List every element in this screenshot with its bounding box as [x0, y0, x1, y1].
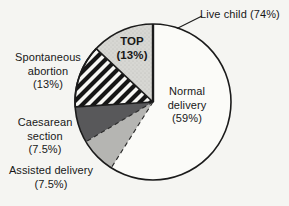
label-caesarean-line3: (7.5%)	[0, 143, 90, 157]
live-child-leader-line	[177, 16, 202, 29]
label-assisted-line1: Assisted delivery	[1, 164, 101, 178]
label-top-slice: TOP (13%)	[100, 35, 164, 62]
label-normal-delivery: Normal delivery (59%)	[147, 85, 227, 126]
label-spontaneous-line1: Spontaneous	[0, 51, 96, 65]
label-top-line2: (13%)	[100, 49, 164, 63]
label-caesarean-section: Caesarean section (7.5%)	[0, 116, 90, 157]
label-live-child: Live child (74%)	[200, 8, 280, 22]
label-normal-line3: (59%)	[147, 112, 227, 126]
label-live-child-text: Live child (74%)	[200, 8, 280, 22]
label-spontaneous-line2: abortion	[0, 65, 96, 79]
label-assisted-delivery: Assisted delivery (7.5%)	[1, 164, 101, 191]
label-caesarean-line2: section	[0, 130, 90, 144]
label-caesarean-line1: Caesarean	[0, 116, 90, 130]
label-top-line1: TOP	[100, 35, 164, 49]
label-spontaneous-line3: (13%)	[0, 78, 96, 92]
label-normal-line2: delivery	[147, 99, 227, 113]
pie-chart-figure: Live child (74%) TOP (13%) Spontaneous a…	[0, 0, 289, 206]
label-assisted-line2: (7.5%)	[1, 178, 101, 192]
label-normal-line1: Normal	[147, 85, 227, 99]
label-spontaneous-abortion: Spontaneous abortion (13%)	[0, 51, 96, 92]
